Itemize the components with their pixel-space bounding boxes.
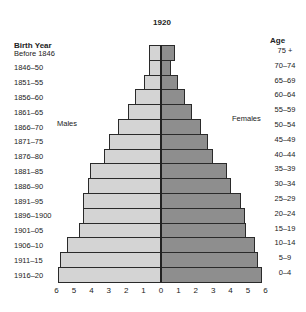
- males-label: Males: [57, 119, 77, 128]
- birth-year-label: 1851–55: [14, 78, 43, 87]
- birth-year-label: 1911–15: [14, 256, 43, 265]
- age-group-label: 15–19: [268, 224, 302, 233]
- birth-year-label: 1906–10: [14, 241, 43, 250]
- birth-year-label: 1866–70: [14, 123, 43, 132]
- age-group-label: 75 +: [268, 46, 302, 55]
- birth-year-label: 1881–85: [14, 167, 43, 176]
- age-header: Age: [270, 36, 285, 45]
- birth-year-label: 1846–50: [14, 63, 43, 72]
- age-group-label: 0–4: [268, 268, 302, 277]
- chart-title: 1920: [0, 18, 306, 27]
- birth-year-label: 1856–60: [14, 93, 43, 102]
- x-tick-label: 1: [139, 286, 149, 295]
- age-group-label: 35–39: [268, 164, 302, 173]
- birth-year-label: 1916–20: [14, 271, 43, 280]
- birth-year-label: 1896–1900: [14, 211, 52, 220]
- x-tick-label: 5: [69, 286, 79, 295]
- x-tick-label: 6: [52, 286, 62, 295]
- x-tick-label: 4: [226, 286, 236, 295]
- x-tick-label: 0: [156, 286, 166, 295]
- x-tick-label: 2: [191, 286, 201, 295]
- x-tick-label: 6: [260, 286, 270, 295]
- females-label: Females: [232, 114, 261, 123]
- x-tick-label: 4: [86, 286, 96, 295]
- female-bar: [161, 267, 262, 283]
- birth-year-label: 1891–95: [14, 197, 43, 206]
- age-group-label: 5–9: [268, 253, 302, 262]
- age-group-label: 20–24: [268, 209, 302, 218]
- age-group-label: 30–34: [268, 179, 302, 188]
- center-axis-line: [160, 45, 162, 282]
- age-group-label: 65–69: [268, 76, 302, 85]
- age-group-label: 55–59: [268, 105, 302, 114]
- male-bar: [58, 267, 161, 283]
- age-group-label: 50–54: [268, 120, 302, 129]
- age-group-label: 10–14: [268, 238, 302, 247]
- x-tick-label: 3: [104, 286, 114, 295]
- age-group-label: 40–44: [268, 150, 302, 159]
- birth-year-label: 1886–90: [14, 182, 43, 191]
- birth-year-label: 1861–65: [14, 108, 43, 117]
- age-group-label: 60–64: [268, 90, 302, 99]
- birth-year-label: Before 1846: [14, 49, 55, 58]
- x-tick-label: 2: [121, 286, 131, 295]
- age-group-label: 25–29: [268, 194, 302, 203]
- birth-year-label: 1901–05: [14, 226, 43, 235]
- x-tick-label: 3: [208, 286, 218, 295]
- birth-year-label: 1876–80: [14, 152, 43, 161]
- x-tick-label: 5: [243, 286, 253, 295]
- birth-year-label: 1871–75: [14, 137, 43, 146]
- age-group-label: 45–49: [268, 135, 302, 144]
- age-group-label: 70–74: [268, 61, 302, 70]
- x-tick-label: 1: [173, 286, 183, 295]
